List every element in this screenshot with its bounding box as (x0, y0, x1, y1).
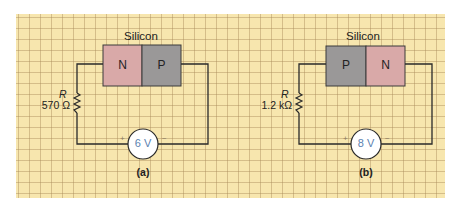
wire-top-left-a (77, 64, 103, 93)
junction-label-b-left: P (326, 58, 366, 72)
source-minus-a: − (162, 134, 167, 143)
resistor-value-b: 1.2 kΩ (252, 99, 292, 111)
source-plus-a: + (120, 134, 125, 143)
material-label-a: Silicon (124, 30, 158, 42)
junction-label-a-left: N (103, 58, 142, 72)
wire-top-left-b (299, 64, 326, 93)
source-value-b: 8 V (351, 137, 381, 149)
source-minus-b: − (385, 134, 390, 143)
source-plus-b: + (343, 134, 348, 143)
junction-label-b-right: N (366, 58, 405, 72)
resistor-value-a: 570 Ω (30, 99, 70, 111)
caption-b: (b) (351, 166, 381, 178)
caption-a: (a) (128, 166, 158, 178)
source-value-a: 6 V (128, 137, 158, 149)
junction-label-a-right: P (142, 58, 181, 72)
resistor-icon-b (296, 93, 302, 113)
material-label-b: Silicon (346, 30, 380, 42)
resistor-icon-a (74, 93, 80, 113)
